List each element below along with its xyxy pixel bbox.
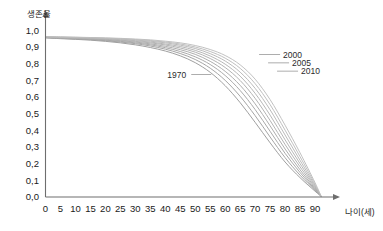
- x-tick-label: 70: [250, 203, 261, 214]
- y-tick-label: 0,7: [26, 75, 39, 86]
- x-tick-label: 5: [58, 203, 63, 214]
- y-tick-label: 0,8: [26, 58, 39, 69]
- x-axis-arrow-icon: [333, 194, 340, 200]
- y-tick-label: 0,5: [26, 108, 39, 119]
- annotation-label-1970: 1970: [167, 70, 186, 80]
- survival-rate-chart: 051015202530354045505560657075808590 0,0…: [0, 0, 383, 231]
- x-tick-label: 15: [85, 203, 96, 214]
- y-tick-label: 0,2: [26, 158, 39, 169]
- x-tick-labels-group: 051015202530354045505560657075808590: [43, 203, 320, 214]
- curve-1985: [46, 37, 322, 196]
- y-tick-label: 1,0: [26, 25, 39, 36]
- x-tick-label: 45: [175, 203, 186, 214]
- x-tick-label: 60: [220, 203, 231, 214]
- x-tick-label: 90: [310, 203, 321, 214]
- x-axis-title: 나이(세): [345, 207, 375, 217]
- x-tick-label: 10: [70, 203, 81, 214]
- y-tick-label: 0,4: [26, 125, 39, 136]
- x-tick-label: 65: [235, 203, 246, 214]
- y-axis-title: 생존율: [27, 9, 51, 19]
- y-tick-labels-group: 0,00,10,20,30,40,50,60,70,80,91,0: [26, 25, 39, 203]
- x-tick-label: 80: [280, 203, 291, 214]
- curve-2010: [46, 37, 322, 197]
- x-tick-label: 20: [100, 203, 111, 214]
- x-tick-label: 25: [115, 203, 126, 214]
- x-tick-label: 0: [43, 203, 48, 214]
- x-tick-label: 50: [190, 203, 201, 214]
- curve-1980: [46, 38, 322, 197]
- chart-canvas: 051015202530354045505560657075808590 0,0…: [0, 0, 383, 231]
- x-tick-label: 85: [295, 203, 306, 214]
- curve-series-group: [46, 37, 322, 197]
- curve-1970: [46, 38, 322, 196]
- x-tick-label: 30: [130, 203, 141, 214]
- y-tick-label: 0,9: [26, 41, 39, 52]
- x-tick-label: 40: [160, 203, 171, 214]
- x-tick-label: 35: [145, 203, 156, 214]
- annotation-label-2010: 2010: [301, 66, 320, 76]
- curve-1990: [46, 37, 322, 196]
- y-tick-label: 0,0: [26, 191, 39, 202]
- y-tick-label: 0,6: [26, 91, 39, 102]
- x-tick-label: 75: [265, 203, 276, 214]
- y-tick-label: 0,1: [26, 175, 39, 186]
- curve-1975: [46, 38, 322, 197]
- y-tick-label: 0,3: [26, 141, 39, 152]
- x-tick-label: 55: [205, 203, 216, 214]
